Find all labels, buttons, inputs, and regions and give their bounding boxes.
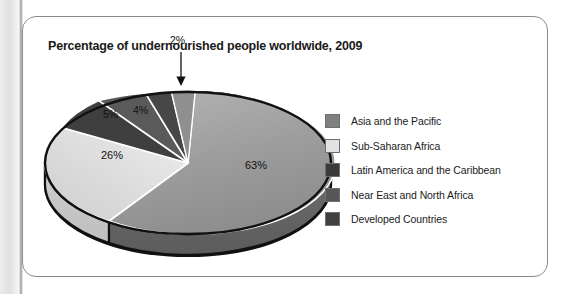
legend-label-asia-and-the-pacific: Asia and the Pacific <box>351 115 441 127</box>
legend-label-near-east-and-north-africa: Near East and North Africa <box>351 189 473 201</box>
legend-item-latin-america-and-the-caribbean[interactable]: Latin America and the Caribbean <box>325 158 540 183</box>
chart-card: Percentage of undernourished people worl… <box>22 16 548 277</box>
chart-legend: Asia and the Pacific Sub-Saharan Africa … <box>325 109 540 232</box>
slice-value-4: 4% <box>133 104 148 116</box>
pie-chart: 63% 26% 5% 4% 2% <box>23 17 353 277</box>
legend-label-sub-saharan-africa: Sub-Saharan Africa <box>351 140 440 152</box>
legend-swatch-latin-america-and-the-caribbean <box>325 163 340 177</box>
legend-item-sub-saharan-africa[interactable]: Sub-Saharan Africa <box>325 134 540 159</box>
pie-chart-svg: 63% 26% 5% 4% 2% <box>23 17 353 277</box>
legend-item-developed-countries[interactable]: Developed Countries <box>325 207 540 232</box>
legend-swatch-sub-saharan-africa <box>325 139 340 153</box>
legend-item-asia-and-the-pacific[interactable]: Asia and the Pacific <box>325 109 540 134</box>
slice-value-63: 63% <box>245 159 267 171</box>
legend-item-near-east-and-north-africa[interactable]: Near East and North Africa <box>325 183 540 208</box>
slice-value-2: 2% <box>170 34 185 46</box>
legend-swatch-developed-countries <box>325 212 340 226</box>
slice-value-5: 5% <box>103 108 118 120</box>
callout-arrow-icon <box>176 52 185 86</box>
legend-swatch-asia-and-the-pacific <box>325 114 340 128</box>
legend-label-latin-america-and-the-caribbean: Latin America and the Caribbean <box>351 164 501 176</box>
legend-label-developed-countries: Developed Countries <box>351 213 447 225</box>
slice-value-26: 26% <box>101 149 123 161</box>
legend-swatch-near-east-and-north-africa <box>325 188 340 202</box>
